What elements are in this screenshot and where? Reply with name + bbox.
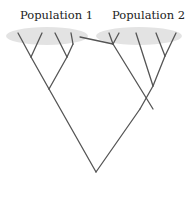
population-1-ellipse: [6, 27, 88, 45]
tree-branches: [18, 33, 176, 172]
phylogenetic-tree: [0, 0, 186, 202]
